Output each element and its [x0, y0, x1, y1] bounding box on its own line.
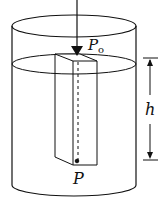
liquid-prism — [55, 54, 97, 165]
prism-top-face — [55, 54, 97, 61]
surface-pressure-arrow — [71, 0, 83, 56]
cylinder-top-rim — [12, 15, 136, 37]
dim-arrow-up-icon — [147, 59, 153, 66]
dim-arrow-down-icon — [147, 152, 153, 159]
fluid-pressure-diagram: Po h P — [0, 0, 168, 202]
point-p-dot — [75, 159, 79, 163]
label-point-pressure: P — [72, 169, 84, 188]
label-surface-pressure: Po — [87, 36, 104, 55]
label-depth: h — [145, 100, 155, 119]
